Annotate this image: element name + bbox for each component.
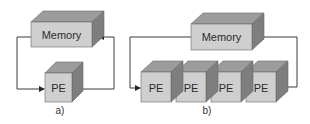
diagram-b: Memory PE PE PE PE b) — [130, 13, 297, 116]
pe-block: PE — [45, 62, 83, 102]
memory-label: Memory — [202, 31, 242, 43]
diagram-a: Memory PE a) — [17, 11, 114, 116]
pe-label: PE — [219, 82, 234, 94]
pe-block-1: PE — [141, 61, 183, 102]
pe-label: PE — [254, 82, 269, 94]
memory-block: Memory — [31, 11, 104, 47]
memory-top-face — [31, 11, 104, 22]
memory-block: Memory — [191, 13, 264, 50]
pe-label: PE — [184, 82, 199, 94]
memory-top-face — [191, 13, 264, 24]
pe-label: PE — [51, 82, 66, 94]
caption-b: b) — [203, 105, 212, 116]
memory-label: Memory — [42, 29, 82, 41]
pe-label: PE — [149, 82, 164, 94]
architecture-figure: Memory PE a) Memory PE — [0, 0, 310, 124]
caption-a: a) — [56, 105, 65, 116]
